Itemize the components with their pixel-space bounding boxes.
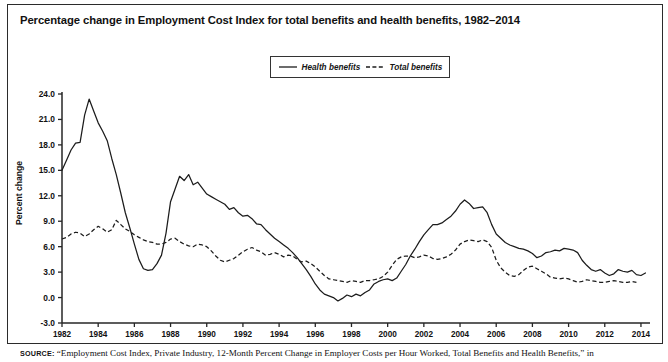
y-tick-label: -3.0: [41, 318, 56, 328]
x-tick-label: 1986: [125, 330, 144, 339]
x-tick-label: 2014: [632, 330, 651, 339]
x-tick-label: 1988: [161, 330, 180, 339]
line-chart-plot: 24.021.018.015.012.09.06.03.00.0-3.01982…: [0, 0, 668, 362]
chart-series: [62, 99, 645, 301]
x-tick-label: 1982: [53, 330, 72, 339]
y-tick-label: 9.0: [43, 216, 55, 226]
x-tick-label: 1984: [89, 330, 108, 339]
series-line-health-benefits: [62, 99, 645, 301]
x-tick-label: 2008: [523, 330, 542, 339]
chart-axes: [62, 92, 650, 323]
y-tick-label: 24.0: [39, 89, 56, 99]
y-tick-label: 18.0: [39, 140, 56, 150]
figure-container: Percentage change in Employment Cost Ind…: [0, 0, 668, 362]
x-tick-label: 1996: [306, 330, 325, 339]
source-note: SOURCE: “Employment Cost Index, Private …: [20, 348, 660, 358]
source-text: “Employment Cost Index, Private Industry…: [57, 348, 594, 358]
x-tick-label: 2010: [559, 330, 578, 339]
y-tick-label: 12.0: [39, 191, 56, 201]
x-tick-label: 1994: [270, 330, 289, 339]
x-tick-label: 1992: [234, 330, 253, 339]
x-tick-label: 1998: [342, 330, 361, 339]
y-tick-label: 6.0: [43, 242, 55, 252]
y-tick-label: 21.0: [39, 114, 56, 124]
y-tick-label: 3.0: [43, 267, 55, 277]
x-tick-label: 2004: [451, 330, 470, 339]
x-tick-label: 2000: [379, 330, 398, 339]
source-label: SOURCE:: [20, 349, 55, 358]
y-tick-label: 0.0: [43, 293, 55, 303]
y-tick-label: 15.0: [39, 165, 56, 175]
chart-ticks: 24.021.018.015.012.09.06.03.00.0-3.01982…: [39, 89, 651, 339]
x-tick-label: 2006: [487, 330, 506, 339]
x-tick-label: 2002: [415, 330, 434, 339]
x-tick-label: 2012: [596, 330, 615, 339]
x-tick-label: 1990: [198, 330, 217, 339]
